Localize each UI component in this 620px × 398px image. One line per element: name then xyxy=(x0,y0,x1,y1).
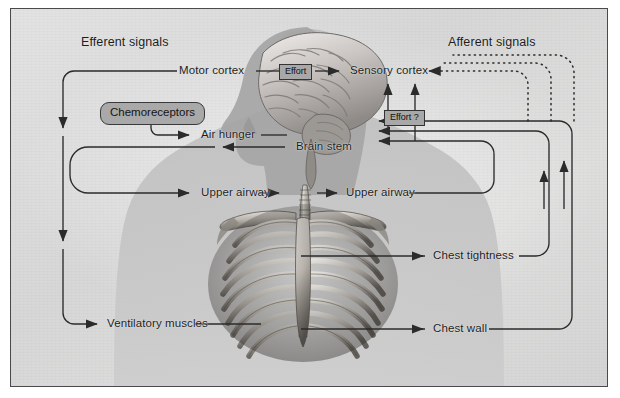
wire-dotted-return-a xyxy=(431,71,528,121)
box-effort: Effort xyxy=(279,64,312,80)
wire-dotted-return-c xyxy=(453,55,574,121)
label-brain-stem: Brain stem xyxy=(296,141,352,153)
box-chemoreceptors: Chemoreceptors xyxy=(100,102,205,125)
wire-left-rail-to-ventilatory xyxy=(63,249,97,324)
box-effort-question: Effort ? xyxy=(384,110,425,126)
header-afferent-signals: Afferent signals xyxy=(448,36,536,49)
label-chest-wall: Chest wall xyxy=(433,323,487,335)
label-ventilatory-muscles: Ventilatory muscles xyxy=(107,318,208,330)
wire-chestwall-loop-to-brainstem xyxy=(379,121,572,329)
label-air-hunger: Air hunger xyxy=(201,129,255,141)
label-upper-airway-right: Upper airway xyxy=(346,187,415,199)
label-motor-cortex: Motor cortex xyxy=(179,65,244,77)
wire-brainstem-uturn-to-upperairway xyxy=(70,147,215,193)
header-efferent-signals: Efferent signals xyxy=(81,36,169,49)
label-chest-tightness: Chest tightness xyxy=(433,250,514,262)
dyspnea-pathway-figure: Efferent signals Afferent signals Motor … xyxy=(0,0,620,398)
label-upper-airway-left: Upper airway xyxy=(201,187,270,199)
label-sensory-cortex: Sensory cortex xyxy=(350,65,428,77)
figure-frame: Efferent signals Afferent signals Motor … xyxy=(10,8,608,387)
